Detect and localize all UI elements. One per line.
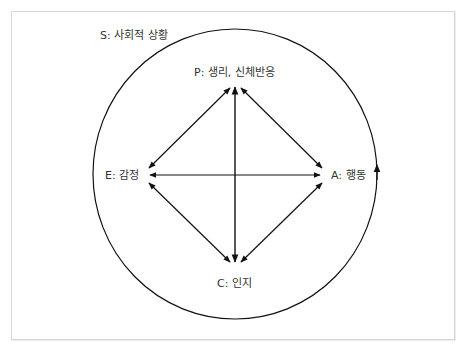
node-label-a: A: 행동 [331, 169, 366, 182]
node-label-c: C: 인지 [217, 277, 252, 290]
edge-p-e [149, 88, 230, 168]
edge-e-c [149, 183, 230, 262]
node-label-p: P: 생리, 신체반응 [194, 66, 275, 79]
diagram-canvas [0, 0, 468, 350]
edge-p-a [241, 88, 322, 168]
context-label-s: S: 사회적 상황 [100, 29, 168, 42]
node-label-e: E: 감정 [105, 169, 139, 182]
edge-a-c [241, 183, 322, 262]
